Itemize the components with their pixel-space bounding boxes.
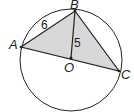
label-o: O [64,61,74,74]
label-c: C [121,68,130,81]
label-b: B [70,0,79,11]
point-c [118,70,121,73]
point-a [20,46,23,49]
measure-bo: 5 [74,37,81,49]
geometry-figure [0,0,134,112]
label-a: A [9,38,18,51]
measure-ab: 6 [41,19,48,31]
